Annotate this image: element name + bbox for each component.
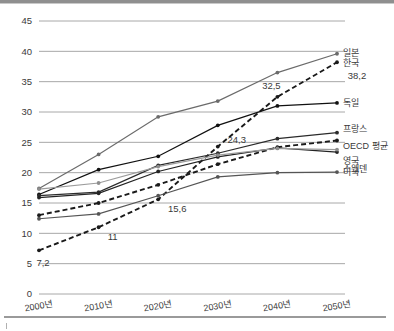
data-point-독일	[216, 123, 220, 127]
data-point-스웨덴	[97, 181, 101, 185]
footnote-tick-mark	[6, 323, 7, 329]
data-point-독일	[335, 101, 339, 105]
data-point-일본	[276, 71, 280, 75]
data-point-영국	[37, 196, 41, 200]
y-tick-label: 40	[21, 46, 32, 57]
data-point-프랑스	[335, 131, 339, 135]
data-point-OECD 평균	[335, 139, 339, 143]
data-point-스웨덴	[216, 153, 220, 157]
data-label-24,3: 24,3	[228, 134, 247, 145]
data-point-일본	[97, 153, 101, 157]
data-point-스웨덴	[276, 147, 280, 151]
data-label-7,2: 7,2	[36, 257, 49, 268]
data-point-스웨덴	[156, 165, 160, 169]
data-point-프랑스	[276, 137, 280, 141]
data-label-38,2: 38,2	[348, 70, 367, 81]
series-label-프랑스: 프랑스	[343, 123, 367, 134]
data-label-32,5: 32,5	[262, 80, 281, 91]
data-label-11: 11	[108, 231, 118, 242]
data-point-미국	[37, 217, 41, 221]
series-line-일본	[39, 54, 337, 189]
x-axis-tick-labels: 2000년2010년2020년2030년2040년2050년	[24, 299, 351, 313]
y-tick-label: 30	[21, 106, 32, 117]
x-tick-label: 2030년	[203, 299, 232, 313]
y-tick-label: 25	[21, 137, 32, 148]
data-point-한국	[216, 145, 220, 149]
data-point-미국	[156, 194, 160, 198]
data-point-스웨덴	[37, 187, 41, 191]
data-point-영국	[156, 170, 160, 174]
series-label-미국: 미국	[343, 167, 359, 177]
series-name-labels: 일본한국독일프랑스OECD 평균영국스웨덴미국	[343, 48, 388, 177]
y-tick-label: 45	[21, 15, 32, 26]
y-tick-label: 5	[27, 258, 32, 269]
data-point-OECD 평균	[216, 162, 220, 166]
data-point-영국	[97, 191, 101, 195]
data-point-미국	[335, 170, 339, 174]
data-point-미국	[216, 175, 220, 179]
y-tick-label: 35	[21, 76, 32, 87]
y-axis-tick-labels: 051015202530354045	[21, 15, 32, 299]
data-point-독일	[276, 104, 280, 108]
data-point-OECD 평균	[97, 201, 101, 205]
data-point-스웨덴	[335, 148, 339, 152]
series-label-독일: 독일	[343, 98, 359, 108]
series-line-스웨덴	[39, 148, 337, 189]
y-tick-label: 20	[21, 167, 32, 178]
series-line-OECD 평균	[39, 141, 337, 216]
series-line-한국	[39, 62, 337, 250]
data-label-15,6: 15,6	[168, 203, 187, 214]
x-tick-label: 2040년	[262, 299, 291, 313]
series-layer	[39, 54, 337, 251]
data-point-한국	[156, 197, 160, 201]
data-point-미국	[97, 212, 101, 216]
x-tick-label: 2010년	[84, 299, 113, 313]
data-point-한국	[276, 95, 280, 99]
y-tick-label: 15	[21, 197, 32, 208]
data-point-OECD 평균	[37, 213, 41, 217]
top-border-hairline	[0, 3, 394, 4]
data-point-독일	[156, 154, 160, 158]
data-point-독일	[97, 168, 101, 172]
y-tick-label: 0	[27, 288, 32, 299]
data-point-한국	[97, 225, 101, 229]
data-point-한국	[335, 60, 339, 64]
gridlines	[39, 21, 345, 294]
bottom-border-rule	[4, 316, 386, 318]
line-chart: 051015202530354045 7,21115,624,332,538,2…	[0, 0, 394, 318]
data-point-한국	[37, 248, 41, 252]
series-label-한국: 한국	[343, 58, 359, 68]
data-point-일본	[335, 52, 339, 56]
series-label-일본: 일본	[343, 48, 359, 58]
data-point-미국	[276, 171, 280, 175]
x-tick-label: 2050년	[322, 299, 351, 313]
x-tick-label: 2000년	[24, 299, 53, 313]
chart-container: 051015202530354045 7,21115,624,332,538,2…	[0, 0, 394, 331]
data-point-일본	[216, 99, 220, 103]
series-line-미국	[39, 172, 337, 219]
series-label-OECD 평균: OECD 평균	[343, 141, 388, 151]
y-tick-label: 10	[21, 228, 32, 239]
data-point-OECD 평균	[156, 183, 160, 187]
data-point-일본	[156, 115, 160, 119]
x-tick-label: 2020년	[143, 299, 172, 313]
